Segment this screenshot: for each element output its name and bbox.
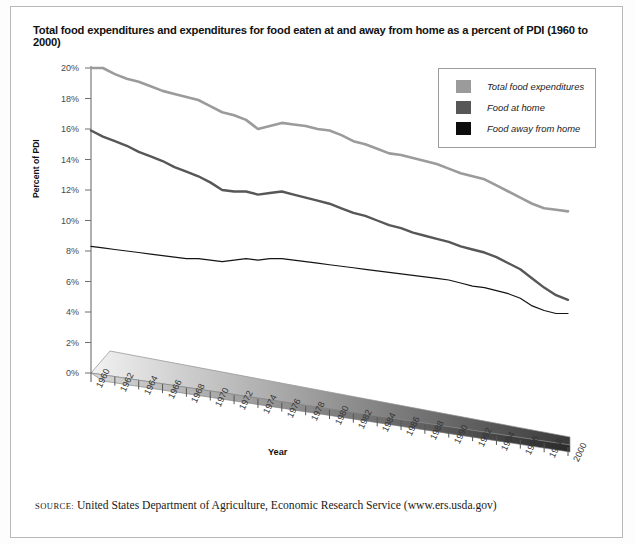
y-axis-tick-label: 16% <box>45 124 79 134</box>
legend-swatch-away-from-home <box>456 122 471 135</box>
y-axis-tick-label: 0% <box>45 368 79 378</box>
y-axis-tick-label: 6% <box>45 277 79 287</box>
y-axis-tick-label: 2% <box>45 338 79 348</box>
legend-item-away-from-home: Food away from home <box>456 121 580 135</box>
source-note: SOURCE: United States Department of Agri… <box>35 499 497 512</box>
y-axis-tick-label: 12% <box>45 185 79 195</box>
y-axis-tick-label: 14% <box>45 155 79 165</box>
chart-page: Total food expenditures and expenditures… <box>0 0 635 544</box>
y-axis-tick-label: 10% <box>45 216 79 226</box>
y-axis-tick-label: 18% <box>45 94 79 104</box>
legend-item-at-home: Food at home <box>456 100 545 114</box>
legend-swatch-total <box>456 80 471 93</box>
chart-legend: Total food expenditures Food at home Foo… <box>438 68 596 148</box>
legend-label-total: Total food expenditures <box>487 81 584 92</box>
source-label: SOURCE: <box>35 501 74 511</box>
legend-label-at-home: Food at home <box>487 102 545 113</box>
legend-label-away-from-home: Food away from home <box>487 123 580 134</box>
y-axis-tick-label: 20% <box>45 63 79 73</box>
y-axis-tick-label: 4% <box>45 307 79 317</box>
legend-item-total: Total food expenditures <box>456 79 584 93</box>
x-axis-title: Year <box>268 447 287 457</box>
source-text: United States Department of Agriculture,… <box>77 499 497 512</box>
y-axis-title: Percent of PDI <box>31 139 41 198</box>
legend-swatch-at-home <box>456 101 471 114</box>
y-axis-tick-label: 8% <box>45 246 79 256</box>
